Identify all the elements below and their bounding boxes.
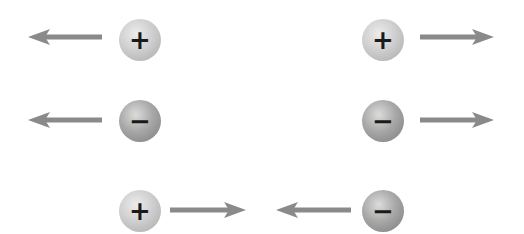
minus-icon: − [372,198,394,224]
charge-interaction-diagram: + + − − + − [0,0,524,234]
negative-charge: − [362,190,404,232]
arrow-left-icon [0,0,524,234]
